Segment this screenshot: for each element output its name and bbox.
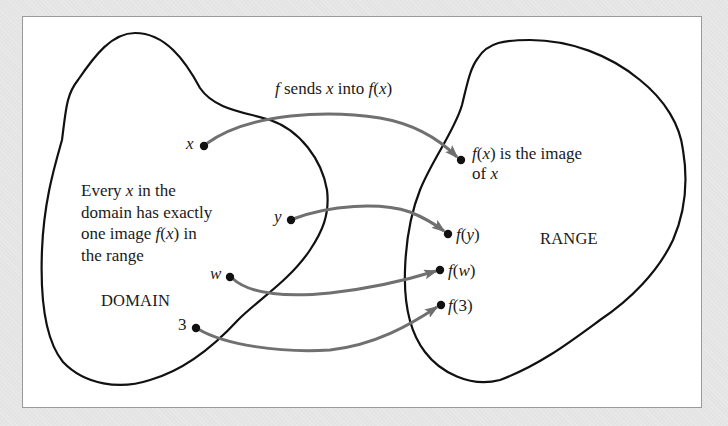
domain-label-w: w — [210, 264, 221, 284]
image-note-line-1: f(x) is the image — [472, 144, 582, 164]
domain-point-x — [200, 142, 208, 150]
mapping-title: f sends x into f(x) — [275, 79, 392, 99]
range-point-fw — [436, 266, 444, 274]
range-point-fy — [444, 230, 452, 238]
range-label-fy: f(y) — [456, 225, 480, 245]
arrow-y-to-fy — [293, 206, 444, 231]
image-note-line-2: of x — [472, 164, 582, 184]
domain-point-3 — [192, 324, 200, 332]
title-into: into — [334, 79, 369, 98]
range-region-outline — [405, 40, 686, 382]
range-label-f3: f(3) — [448, 296, 473, 316]
domain-label-3: 3 — [178, 315, 187, 335]
domain-label-x: x — [186, 134, 194, 154]
arrow-3-to-f3 — [198, 307, 437, 351]
domain-label: DOMAIN — [101, 291, 170, 311]
description-line-2: domain has exactly — [81, 202, 212, 224]
title-x: x — [326, 79, 334, 98]
description-line-4: the range — [81, 245, 212, 267]
domain-point-y — [287, 216, 295, 224]
range-point-f3 — [437, 301, 445, 309]
description-line-3: one image f(x) in — [81, 223, 212, 245]
range-label: RANGE — [540, 229, 598, 249]
title-sends: sends — [280, 79, 326, 98]
image-note: f(x) is the image of x — [472, 144, 582, 184]
domain-point-w — [226, 273, 234, 281]
description-line-1: Every x in the — [81, 180, 212, 202]
arrow-x-to-fx — [206, 114, 457, 157]
range-label-fw: f(w) — [448, 261, 475, 281]
domain-description: Every x in the domain has exactly one im… — [81, 180, 212, 266]
range-point-fx — [457, 156, 465, 164]
title-close: ) — [386, 79, 392, 98]
domain-label-y: y — [274, 207, 282, 227]
